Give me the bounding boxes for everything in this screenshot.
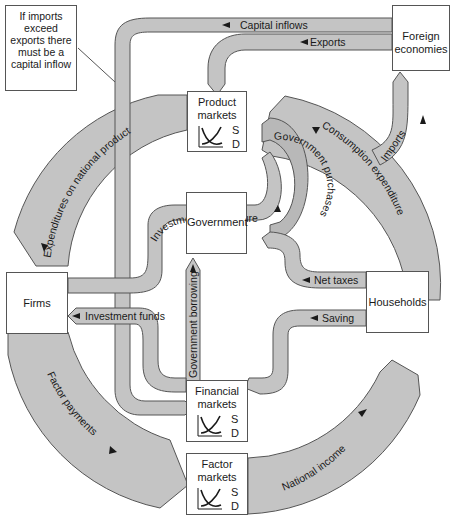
supply-label: S <box>232 124 239 137</box>
node-foreign-label: Foreign economies <box>393 30 449 56</box>
node-product-markets: Product markets S D <box>187 91 247 152</box>
node-foreign-economies: Foreign economies <box>392 5 450 71</box>
node-government: Government <box>186 192 247 254</box>
node-financial-markets: Financial markets S D <box>186 380 248 442</box>
note-pointer-line <box>78 48 115 82</box>
note-text: If imports exceed exports there must be … <box>10 10 71 70</box>
node-firms-label: Firms <box>7 297 67 310</box>
node-firms: Firms <box>6 272 68 334</box>
label-capital-inflows: Capital inflows <box>240 19 308 31</box>
supply-demand-icon <box>196 415 224 437</box>
supply-label: S <box>231 413 238 426</box>
label-government-borrowing: Government borrowing <box>187 271 199 378</box>
label-saving: Saving <box>322 312 354 324</box>
demand-label: D <box>231 427 239 440</box>
label-exports: Exports <box>310 36 346 48</box>
label-investment-funds: Investment funds <box>85 310 165 322</box>
node-households: Households <box>366 271 429 333</box>
node-product-label: Product markets <box>188 96 246 122</box>
supply-demand-icon <box>197 126 225 148</box>
flow-factor-payments <box>8 332 188 508</box>
demand-label: D <box>232 138 240 151</box>
supply-demand-icon <box>196 488 224 510</box>
flow-exports <box>208 34 392 95</box>
node-households-label: Households <box>367 296 428 309</box>
node-government-label: Government <box>187 216 246 229</box>
node-factor-markets: Factor markets S D <box>186 453 248 515</box>
capital-inflow-note: If imports exceed exports there must be … <box>5 5 77 91</box>
arrow-imports-icon <box>420 115 426 124</box>
demand-label: D <box>231 500 239 513</box>
node-financial-label: Financial markets <box>187 385 247 411</box>
node-factor-label: Factor markets <box>187 458 247 484</box>
label-net-taxes: Net taxes <box>314 274 358 286</box>
supply-label: S <box>231 486 238 499</box>
